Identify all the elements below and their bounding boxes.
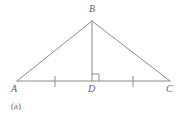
vertex-label-d: D xyxy=(88,84,95,94)
segment-bc xyxy=(92,21,170,81)
figure-caption: (a) xyxy=(11,102,21,111)
geometry-figure: A B C D (a) xyxy=(0,0,181,121)
vertex-label-a: A xyxy=(11,84,17,94)
right-angle-marker-icon xyxy=(92,74,99,81)
triangle-diagram-svg xyxy=(0,0,181,121)
segment-ab xyxy=(17,21,92,81)
vertex-label-b: B xyxy=(89,4,95,14)
vertex-label-c: C xyxy=(166,84,173,94)
